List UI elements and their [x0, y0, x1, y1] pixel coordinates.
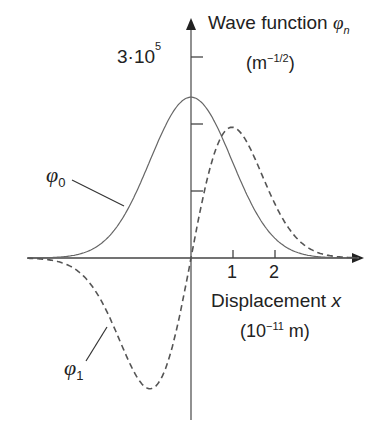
x-unit-sup: −11: [266, 320, 284, 332]
y-unit-sup: −1/2: [267, 52, 289, 64]
phi0-leader-line: [72, 180, 124, 206]
y-unit-post: ): [289, 53, 295, 73]
y-tick-base: 3·10: [117, 46, 155, 67]
x-axis-title: Displacement x: [211, 290, 341, 312]
x-unit-pre: (10: [240, 321, 266, 341]
series-phi0: [27, 97, 359, 258]
y-unit-pre: (m: [246, 53, 267, 73]
phi1-symbol: φ: [64, 355, 76, 380]
y-axis-arrow-icon: [186, 18, 196, 30]
x-title-symbol: x: [331, 290, 341, 311]
phi1-subscript: 1: [76, 368, 83, 383]
y-title-symbol: φ: [333, 12, 344, 33]
x-unit-post: m): [284, 321, 310, 341]
y-axis-unit: (m−1/2): [246, 52, 295, 74]
y-axis-title: Wave function φn: [208, 12, 350, 36]
y-tick-exp: 5: [155, 40, 161, 52]
x-tick-label-2: 2: [269, 262, 279, 283]
phi0-symbol: φ: [46, 162, 58, 187]
x-axis-unit: (10−11 m): [240, 320, 310, 342]
y-title-text: Wave function: [208, 12, 333, 33]
x-tick-label-1: 1: [227, 262, 237, 283]
chart-canvas: [0, 0, 376, 446]
y-title-subscript: n: [343, 24, 349, 36]
phi0-subscript: 0: [58, 175, 65, 190]
phi0-annotation: φ0: [46, 162, 65, 190]
x-title-text: Displacement: [211, 290, 331, 311]
y-tick-label-3e5: 3·105: [117, 46, 161, 68]
phi1-annotation: φ1: [64, 355, 83, 383]
phi1-leader-line: [86, 327, 107, 361]
